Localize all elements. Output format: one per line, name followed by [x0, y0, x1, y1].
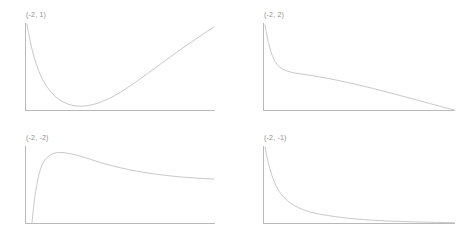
plot-svg-bottom-right [238, 123, 475, 246]
curve-top-left [27, 24, 214, 106]
plot-svg-top-right [238, 0, 475, 123]
plot-panel-bottom-left: (-2, -2) [0, 123, 237, 246]
plot-svg-bottom-left [0, 123, 237, 246]
axis-spines-bottom-right [264, 146, 456, 224]
panel-label-bottom-right: (-2, -1) [264, 134, 287, 141]
curve-top-right [265, 25, 454, 110]
axis-spines-bottom-left [26, 146, 216, 224]
plot-svg-top-left [0, 0, 237, 123]
curve-bottom-left [32, 152, 214, 223]
curve-bottom-right [265, 147, 454, 223]
plot-panel-top-right: (-2, 2) [238, 0, 475, 123]
panel-label-bottom-left: (-2, -2) [26, 134, 49, 141]
axis-spines-top-right [264, 23, 456, 111]
plot-panel-bottom-right: (-2, -1) [238, 123, 475, 246]
plot-panel-top-left: (-2, 1) [0, 0, 237, 123]
axis-spines-top-left [26, 23, 216, 111]
figure-grid: (-2, 1) (-2, 2) (-2, -2) (-2, -1) [0, 0, 475, 246]
panel-label-top-left: (-2, 1) [26, 11, 46, 18]
panel-label-top-right: (-2, 2) [264, 11, 284, 18]
